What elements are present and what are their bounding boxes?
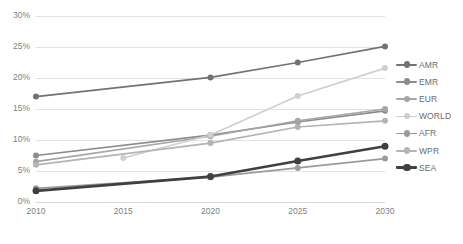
series-line-sea <box>36 146 385 191</box>
legend-marker-icon <box>404 147 411 154</box>
legend-swatch-icon <box>396 76 417 87</box>
x-axis-baseline <box>36 202 385 203</box>
legend-item-eur[interactable]: EUR <box>396 90 463 107</box>
y-axis-tick-label: 5% <box>0 165 30 175</box>
legend-swatch-icon <box>396 111 417 122</box>
series-line-amr <box>36 46 385 96</box>
legend-marker-icon <box>404 61 411 68</box>
x-axis-tick-label: 2025 <box>275 206 321 216</box>
y-axis-tick-label: 15% <box>0 103 30 113</box>
y-axis-tick-label: 0% <box>0 196 30 206</box>
chart-legend: AMREMREURWORLDAFRWPRSEA <box>396 56 463 176</box>
legend-label: EMR <box>419 77 438 87</box>
legend-label: WORLD <box>419 111 451 121</box>
data-point-eur <box>382 106 388 112</box>
x-axis-tick-label: 2030 <box>362 206 408 216</box>
legend-item-emr[interactable]: EMR <box>396 73 463 90</box>
data-point-world <box>382 65 388 71</box>
data-point-wpr <box>33 162 39 168</box>
legend-item-afr[interactable]: AFR <box>396 125 463 142</box>
legend-label: EUR <box>419 94 437 104</box>
data-point-afr <box>295 165 301 171</box>
y-axis-tick-label: 25% <box>0 41 30 51</box>
x-axis-tick-label: 2020 <box>188 206 234 216</box>
plot-area <box>36 16 385 202</box>
series-line-world <box>123 68 385 158</box>
data-point-afr <box>382 156 388 162</box>
data-point-world <box>295 93 301 99</box>
x-axis-tick-label: 2015 <box>100 206 146 216</box>
data-point-eur <box>295 118 301 124</box>
data-point-world <box>208 132 214 138</box>
y-axis-tick-label: 30% <box>0 10 30 20</box>
legend-swatch-icon <box>396 59 417 70</box>
data-point-emr <box>33 153 39 159</box>
legend-item-sea[interactable]: SEA <box>396 159 463 176</box>
legend-marker-icon <box>403 164 411 172</box>
legend-marker-icon <box>404 78 411 85</box>
data-point-wpr <box>208 140 214 146</box>
data-point-amr <box>295 60 301 66</box>
x-axis-tick-label: 2010 <box>13 206 59 216</box>
data-point-world <box>120 155 126 161</box>
legend-label: AFR <box>419 128 436 138</box>
legend-swatch-icon <box>396 162 417 173</box>
legend-swatch-icon <box>396 145 417 156</box>
line-chart: 0%5%10%15%20%25%30% 20102015202020252030… <box>0 0 463 244</box>
legend-swatch-icon <box>396 93 417 104</box>
legend-marker-icon <box>404 113 411 120</box>
legend-item-wpr[interactable]: WPR <box>396 142 463 159</box>
legend-item-amr[interactable]: AMR <box>396 56 463 73</box>
data-point-sea <box>294 158 301 165</box>
legend-item-world[interactable]: WORLD <box>396 108 463 125</box>
data-point-wpr <box>295 124 301 130</box>
legend-label: AMR <box>419 60 438 70</box>
legend-swatch-icon <box>396 128 417 139</box>
series-layer <box>36 16 385 202</box>
data-point-sea <box>207 173 214 180</box>
data-point-amr <box>208 74 214 80</box>
data-point-wpr <box>382 118 388 124</box>
y-axis-tick-label: 20% <box>0 72 30 82</box>
legend-label: WPR <box>419 146 439 156</box>
y-axis-tick-label: 10% <box>0 134 30 144</box>
data-point-amr <box>33 94 39 100</box>
legend-label: SEA <box>419 163 436 173</box>
legend-marker-icon <box>404 130 411 137</box>
data-point-sea <box>382 143 389 150</box>
legend-marker-icon <box>404 96 411 103</box>
data-point-sea <box>33 187 40 194</box>
data-point-amr <box>382 43 388 49</box>
